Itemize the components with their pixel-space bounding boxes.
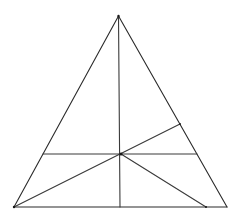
interior-point: [119, 152, 122, 155]
side-ab: [14, 16, 119, 207]
segment-pf: [121, 154, 206, 207]
triangle-diagram: [0, 0, 237, 223]
right-side-point: [179, 123, 181, 125]
side-ac: [119, 16, 228, 207]
cevian-be: [14, 124, 180, 207]
base-right-point: [205, 206, 207, 208]
bottom-left-point: [13, 206, 15, 208]
vertical-ad: [119, 16, 121, 207]
apex-point: [117, 15, 119, 17]
diagram-svg: [0, 0, 237, 223]
